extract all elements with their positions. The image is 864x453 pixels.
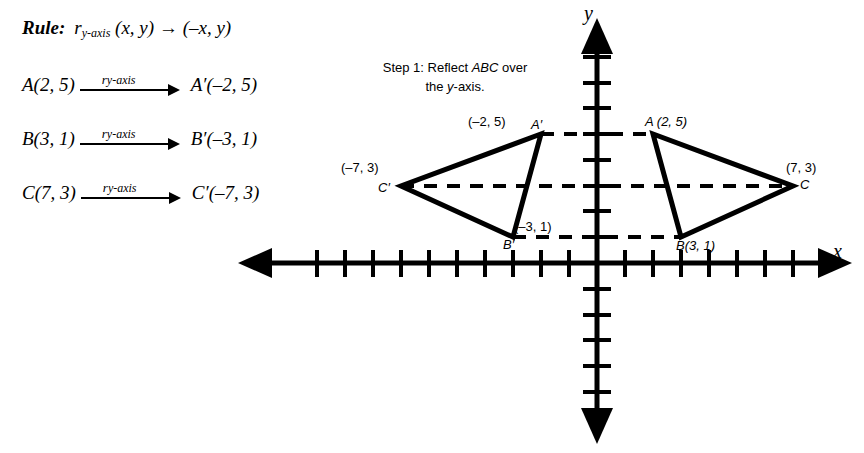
mapping-arrow-a: ry-axis (80, 70, 184, 100)
mapping-arrow-head-b (168, 138, 180, 150)
rule-image: (–x, y) (183, 17, 232, 38)
mapping-source-c: C(7, 3) (22, 182, 76, 204)
step-caption: Step 1: Reflect ABC over the y-axis. (360, 58, 550, 96)
rule-panel: Rule:ry-axis (x, y) → (–x, y) A(2, 5) ry… (0, 0, 330, 230)
point-label-c: C (800, 177, 809, 192)
step-text-line1-italic: ABC (472, 60, 499, 75)
step-text-line1-prefix: Step 1: Reflect (383, 60, 472, 75)
y-axis-label: y (584, 2, 593, 25)
rule-arrow-glyph: → (159, 17, 178, 38)
x-axis-label: x (833, 240, 842, 263)
rule-keyword: Rule: (22, 17, 65, 38)
x-axis-arrow-left (238, 248, 272, 278)
mapping-arrow-b: ry-axis (80, 124, 184, 154)
rule-statement: Rule:ry-axis (x, y) → (–x, y) (22, 18, 231, 39)
step-text-line2-suffix: -axis. (454, 79, 485, 94)
mapping-arrow-shaft-b (80, 143, 174, 145)
point-label-b: B(3, 1) (676, 238, 715, 253)
mapping-arrow-label-sub-c: y-axis (108, 181, 137, 195)
rule-mapping-name: r (74, 17, 81, 38)
point-label-c-prime-coords: (–7, 3) (341, 160, 379, 175)
y-axis-arrow-down (581, 408, 613, 444)
mapping-row-a: A(2, 5) ry-axis A′(–2, 5) (22, 70, 257, 114)
point-label-b-prime-coords: (–3, 1) (514, 219, 552, 234)
mapping-source-b: B(3, 1) (22, 128, 75, 150)
mapping-arrow-c: ry-axis (81, 178, 185, 208)
rule-mapping-subscript: y-axis (82, 27, 111, 39)
point-label-b-prime: B′ (503, 237, 514, 252)
point-label-c-prime: C′ (378, 180, 390, 195)
mapping-target-b: B′(–3, 1) (191, 128, 257, 150)
mapping-arrow-label-sub-a: y-axis (107, 73, 136, 87)
mapping-target-c: C′(–7, 3) (192, 182, 259, 204)
mapping-row-b: B(3, 1) ry-axis B′(–3, 1) (22, 124, 257, 168)
rule-preimage: (x, y) (115, 17, 154, 38)
mapping-arrow-shaft-a (80, 89, 174, 91)
mapping-arrow-label-sub-b: y-axis (107, 127, 136, 141)
mapping-row-c: C(7, 3) ry-axis C′(–7, 3) (22, 178, 259, 222)
mapping-source-a: A(2, 5) (22, 74, 75, 96)
point-label-a-prime-coords: (–2, 5) (468, 114, 506, 129)
point-label-c-coords: (7, 3) (786, 160, 816, 175)
mapping-arrow-head-c (169, 192, 181, 204)
step-text-line2-prefix: the (425, 79, 447, 94)
mapping-arrow-head-a (168, 84, 180, 96)
point-label-a: A (2, 5) (645, 114, 687, 129)
point-label-a-prime: A′ (531, 117, 542, 132)
mapping-target-a: A′(–2, 5) (191, 74, 257, 96)
step-text-line1-suffix: over (498, 60, 527, 75)
mapping-arrow-shaft-c (81, 197, 175, 199)
